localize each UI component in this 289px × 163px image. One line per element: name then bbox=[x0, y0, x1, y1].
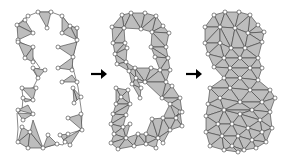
panel-stage-1 bbox=[15, 10, 84, 150]
right-arrow-icon bbox=[91, 69, 107, 79]
panel-stage-2 bbox=[109, 11, 184, 151]
mesh-stages-figure bbox=[0, 0, 289, 163]
right-arrow-icon bbox=[186, 69, 202, 79]
panel-stage-3 bbox=[203, 10, 277, 154]
